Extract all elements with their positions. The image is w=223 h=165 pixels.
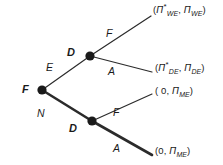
payoff-me-upper-second-sub: ME [179,91,190,98]
node-label-root-f: F [22,84,29,95]
node-lower-d [87,116,96,125]
payoff-we-close: ) [202,4,205,15]
branch-label-upper-a: A [108,66,115,77]
node-label-lower-d: D [69,123,77,134]
edge-upper-d-to-payoff-de [90,56,152,72]
payoff-label-de: (Π*DE, ΠDE) [155,63,205,73]
branch-label-n: N [37,108,45,119]
node-upper-d [85,51,94,60]
branch-label-lower-a: A [113,143,120,154]
payoff-we-second-sub: WE [191,10,202,17]
payoff-we-second-symbol: Π [184,4,191,15]
tree-edges-canvas [0,0,223,165]
payoff-label-me-upper: ( 0, ΠME) [155,86,193,96]
game-tree-diagram: F D D E N F A F A (Π*WE, ΠWE) (Π*DE, ΠDE… [0,0,223,165]
payoff-we-first-symbol: Π [156,4,163,15]
payoff-de-close: ) [201,62,204,73]
payoff-de-second-sub: DE [191,68,201,75]
edge-root-to-lower-d [42,90,92,121]
payoff-label-me-lower: (0, ΠME) [155,146,190,156]
payoff-me-lower-second-sub: ME [176,151,187,158]
branch-label-lower-f: F [113,107,119,118]
edge-lower-d-to-payoff-me-lower [92,121,152,155]
payoff-me-lower-close: ) [187,145,190,156]
payoff-we-first-sub: WE [167,10,178,17]
payoff-de-first-symbol: Π [158,62,165,73]
node-root-f [37,85,46,94]
payoff-de-first-sub: DE [169,68,179,75]
node-label-upper-d: D [67,47,75,58]
branch-label-upper-f: F [106,28,112,39]
payoff-label-we: (Π*WE, ΠWE) [153,5,206,15]
branch-label-e: E [46,62,53,73]
edge-upper-d-to-payoff-we [90,16,151,56]
payoff-me-upper-close: ) [190,85,193,96]
edge-lower-d-to-payoff-me-upper [92,94,152,121]
